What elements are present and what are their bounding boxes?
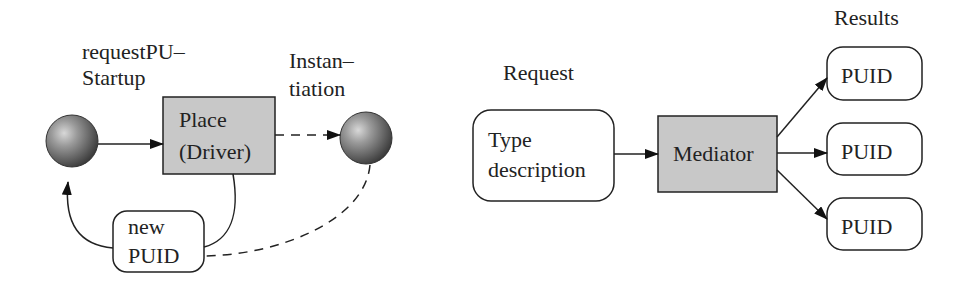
label-results: Results bbox=[834, 5, 899, 31]
result-puid-3-label: PUID bbox=[841, 213, 892, 241]
start-sphere bbox=[46, 115, 98, 167]
label-request-startup-line1: requestPU– bbox=[82, 39, 185, 65]
result-puid-1-label: PUID bbox=[841, 62, 892, 90]
label-instantiation-line1: Instan– bbox=[289, 48, 354, 74]
new-puid-line1: new bbox=[128, 213, 165, 241]
result-puid-2-label: PUID bbox=[841, 138, 892, 166]
instance-sphere bbox=[340, 112, 392, 164]
type-box-line2: description bbox=[488, 156, 586, 184]
type-box-line1: Type bbox=[488, 126, 532, 154]
label-request: Request bbox=[503, 60, 574, 86]
place-box-line2: (Driver) bbox=[179, 138, 251, 166]
curve-instance-to-newpuid bbox=[204, 165, 370, 256]
arrow-newpuid-to-start bbox=[67, 182, 113, 248]
curve-place-to-newpuid bbox=[204, 174, 235, 247]
mediator-label: Mediator bbox=[673, 140, 754, 168]
label-request-startup-line2: Startup bbox=[82, 65, 146, 91]
place-box-line1: Place bbox=[179, 106, 227, 134]
new-puid-line2: PUID bbox=[128, 242, 179, 270]
arrow-mediator-to-puid-1 bbox=[777, 78, 827, 137]
arrow-mediator-to-puid-3 bbox=[777, 170, 827, 219]
label-instantiation-line2: tiation bbox=[289, 76, 345, 102]
